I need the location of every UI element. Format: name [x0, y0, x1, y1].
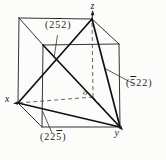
miller-index-label-top: (252) [45, 20, 72, 30]
miller-index-label-right: (522) [126, 78, 153, 88]
leader-top-label [54, 35, 58, 58]
edge-front-left [42, 45, 43, 127]
leader-bottom-label [43, 111, 53, 133]
edge-front-top [43, 44, 119, 45]
edge-right [119, 44, 120, 127]
plane-edge-x-z [18, 19, 92, 103]
x-axis-arrow-icon [13, 101, 18, 105]
axis-label-x: x [5, 94, 9, 104]
hidden-edge-o-z [92, 19, 93, 97]
crystal-plane-diagram: (252) (522) (225) z x y o [0, 0, 166, 160]
miller-index-label-bottom: (225) [40, 132, 67, 142]
miller-right-post: 22) [136, 77, 152, 88]
plane-edge-x-y [18, 103, 120, 127]
miller-bottom-post: ) [62, 131, 66, 142]
miller-top-post: 2) [61, 19, 71, 30]
hidden-edge-o-x [18, 97, 93, 103]
miller-bottom-pre: (22 [40, 131, 56, 142]
miller-top-pre: (2 [45, 19, 55, 30]
origin-label-o: o [83, 88, 88, 97]
edge-depth-top [19, 18, 43, 45]
axis-label-z: z [91, 1, 95, 11]
plane-edges [18, 19, 120, 127]
axis-label-y: y [115, 128, 119, 138]
plane-edge-z-y [92, 19, 120, 127]
edge-left [18, 18, 19, 103]
plane-edge-chord-y [43, 45, 120, 127]
